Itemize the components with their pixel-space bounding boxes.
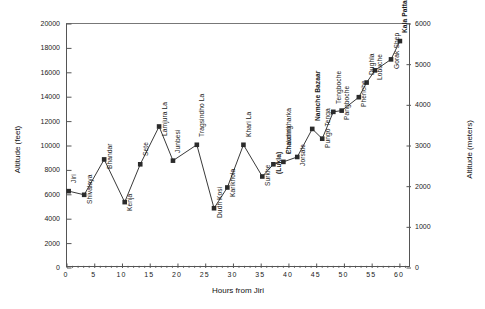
x-tick-label: 30 [217, 271, 247, 278]
y-tick-label-left: 20000 [26, 20, 60, 27]
data-point-label: Surkhe [264, 164, 271, 186]
data-point-label: Chaumrikharka [285, 108, 292, 154]
data-point-label: Pheriche [360, 80, 367, 107]
data-point-label: Tragsindho La [198, 94, 205, 137]
y-tick-label-right: 4000 [415, 101, 449, 108]
data-point-label: Jiri [70, 174, 77, 183]
data-point-label: Junbesi [174, 129, 181, 152]
data-point-label: Dughla [368, 53, 375, 75]
plot-area [66, 23, 410, 267]
y-axis-title-right: Altitude (meters) [465, 105, 474, 195]
x-tick-label: 50 [328, 271, 358, 278]
x-tick-label: 55 [356, 271, 386, 278]
x-tick-label: 45 [301, 271, 331, 278]
y-tick-label-left: 18000 [26, 44, 60, 51]
data-point-label: Lobuche [376, 54, 383, 80]
data-point-label: (Lukla) [275, 151, 282, 173]
y-tick-label-left: 14000 [26, 93, 60, 100]
y-tick-label-left: 2000 [26, 239, 60, 246]
y-tick-label-right: 3000 [415, 142, 449, 149]
data-point-label: Karikhola [229, 169, 236, 197]
y-tick-label-left: 10000 [26, 142, 60, 149]
x-axis-title: Hours from Jiri [158, 286, 318, 295]
x-tick-label: 60 [384, 271, 414, 278]
data-point-label: Shivalaya [86, 175, 93, 205]
y-tick-label-left: 8000 [26, 166, 60, 173]
y-tick-label-right: 5000 [415, 60, 449, 67]
data-point-label: Kala Pattar [401, 0, 408, 33]
data-point-label: Kenja [126, 194, 133, 211]
y-tick-label-right: 0 [415, 264, 449, 271]
y-tick-label-right: 2000 [415, 182, 449, 189]
y-tick-label-left: 12000 [26, 117, 60, 124]
x-tick-label: 5 [79, 271, 109, 278]
data-point-label: Sete [142, 142, 149, 156]
data-point-label: Khari La [245, 111, 252, 136]
data-point-label: Gorak Shep [393, 33, 400, 69]
data-point-label: Pangboche [343, 86, 350, 120]
y-tick-label-left: 16000 [26, 68, 60, 75]
x-tick-label: 35 [245, 271, 275, 278]
y-tick-label-left: 4000 [26, 215, 60, 222]
altitude-profile-series [67, 24, 411, 268]
data-point-label: Lamjura La [161, 102, 168, 136]
y-tick-label-left: 6000 [26, 190, 60, 197]
data-point-label: Pungo Tenga [324, 108, 331, 148]
y-tick-label-right: 6000 [415, 20, 449, 27]
y-tick-label-right: 1000 [415, 223, 449, 230]
chart-figure: Jiri to Khumbu & Kala Pattar Altitude (f… [0, 0, 485, 309]
data-point-label: Jorsale [299, 144, 306, 166]
x-tick-label: 40 [273, 271, 303, 278]
x-tick-label: 25 [190, 271, 220, 278]
y-tick-label-left: 0 [26, 264, 60, 271]
data-point-label: Tengboche [335, 71, 342, 104]
x-tick-label: 15 [134, 271, 164, 278]
x-tick-label: 20 [162, 271, 192, 278]
x-tick-label: 0 [51, 271, 81, 278]
y-axis-title-left: Altitude (feet) [13, 105, 22, 195]
data-point-label: Dudh Kosi [216, 186, 223, 217]
data-point-label: Namche Bazaar [314, 70, 321, 120]
x-tick-label: 10 [106, 271, 136, 278]
data-point-label: Bhandar [106, 143, 113, 169]
